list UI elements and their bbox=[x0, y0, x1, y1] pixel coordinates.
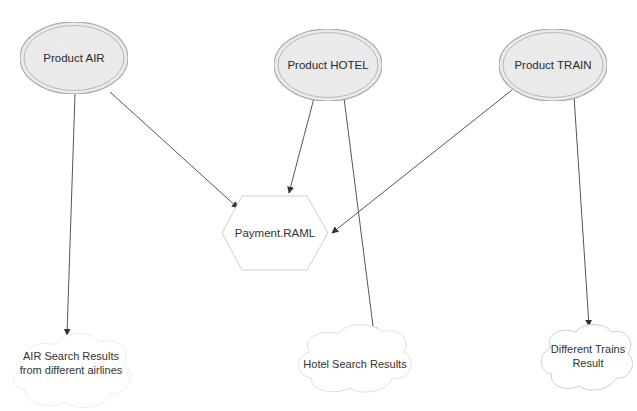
label-train-results-line2: Result bbox=[551, 356, 625, 370]
label-train-results-line1: Different Trains bbox=[551, 342, 625, 356]
label-air-results-line1: AIR Search Results bbox=[20, 349, 123, 363]
label-product-hotel: Product HOTEL bbox=[287, 58, 368, 72]
edge-air-to-payment[interactable] bbox=[110, 92, 238, 208]
edges bbox=[67, 90, 589, 335]
label-payment-raml: Payment.RAML bbox=[235, 226, 316, 240]
edge-hotel-to-results[interactable] bbox=[344, 98, 374, 334]
label-train-results: Different Trains Result bbox=[551, 342, 625, 370]
label-product-air: Product AIR bbox=[43, 51, 104, 65]
label-hotel-results: Hotel Search Results bbox=[303, 357, 406, 371]
edge-train-to-results[interactable] bbox=[574, 96, 589, 326]
edge-hotel-to-payment[interactable] bbox=[289, 98, 314, 193]
label-air-results: AIR Search Results from different airlin… bbox=[20, 349, 123, 377]
edge-air-to-results[interactable] bbox=[67, 94, 75, 335]
edge-train-to-payment[interactable] bbox=[332, 90, 512, 233]
label-air-results-line2: from different airlines bbox=[20, 363, 123, 377]
label-product-train: Product TRAIN bbox=[514, 58, 591, 72]
